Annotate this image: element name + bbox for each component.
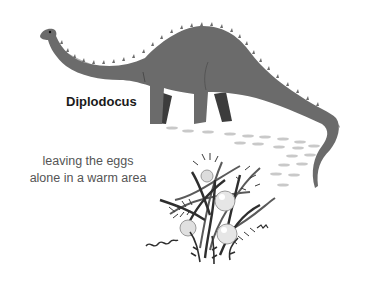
egg-icon bbox=[215, 191, 235, 211]
footprint-trail-icon bbox=[166, 126, 320, 186]
egg-icon bbox=[201, 170, 213, 182]
caption: leaving the eggs alone in a warm area bbox=[28, 153, 148, 187]
diplodocus-illustration bbox=[0, 0, 372, 281]
egg-icon bbox=[180, 220, 196, 236]
egg-icon bbox=[217, 224, 237, 244]
caption-line-1: leaving the eggs bbox=[28, 153, 148, 170]
caption-line-2: alone in a warm area bbox=[28, 170, 148, 187]
species-label: Diplodocus bbox=[66, 94, 137, 109]
nest-ferns-icon bbox=[146, 153, 275, 264]
